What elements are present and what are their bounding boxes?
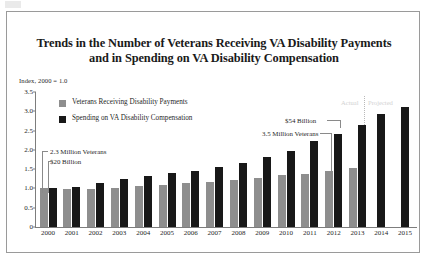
bar-pair-2012 (325, 92, 344, 227)
y-tick-label: 0.5 (24, 204, 33, 212)
bar-pair-2004 (135, 92, 154, 227)
bar-spending-2011 (310, 141, 318, 227)
leader-line-spending-2013-h (327, 120, 340, 121)
y-tick-label: 2.5 (24, 127, 33, 135)
y-tick-label: 2.0 (24, 146, 33, 154)
bar-veterans-2000 (40, 188, 48, 227)
bar-veterans-2005 (159, 185, 167, 227)
bar-pair-2015 (397, 92, 416, 227)
bar-veterans-2003 (111, 188, 119, 227)
bar-veterans-2007 (206, 182, 214, 227)
x-tick-label-2015: 2015 (390, 229, 420, 237)
bar-pair-2011 (301, 92, 320, 227)
bar-pair-2013 (349, 92, 368, 227)
bar-spending-2015 (401, 107, 409, 227)
bar-spending-2002 (96, 183, 104, 227)
bar-spending-2000 (49, 188, 57, 227)
bar-veterans-2006 (182, 183, 190, 227)
y-tick-label: 1.0 (24, 184, 33, 192)
bar-pair-2010 (278, 92, 297, 227)
bar-pair-2008 (230, 92, 249, 227)
bar-veterans-2011 (301, 174, 309, 227)
bar-veterans-2001 (63, 189, 71, 227)
chart-title-line-2: and in Spending on VA Disability Compens… (18, 51, 410, 66)
bar-veterans-2013 (349, 168, 357, 227)
bar-pair-2005 (159, 92, 178, 227)
bar-veterans-2010 (278, 175, 286, 227)
bar-spending-2006 (191, 171, 199, 227)
annotation-spending-2000: $20 Billion (50, 158, 81, 165)
leader-line-veterans-2000-h (42, 151, 48, 152)
x-tick-group: 2000200120022003200420052006200720082009… (36, 229, 417, 243)
y-tick-label: 3.0 (24, 107, 33, 115)
y-tick-label: 3.5 (24, 88, 33, 96)
bar-spending-2010 (287, 151, 295, 227)
leader-line-veterans-2013-v (331, 133, 332, 188)
bar-pair-2003 (111, 92, 130, 227)
bar-veterans-2008 (230, 180, 238, 227)
bar-spending-2003 (120, 179, 128, 227)
y-axis-label: Index, 2000 = 1.0 (19, 77, 67, 84)
bar-spending-2012 (334, 134, 342, 227)
bar-spending-2007 (215, 167, 223, 227)
annotation-veterans-2000: 2.3 Million Veterans (50, 148, 106, 155)
leader-line-veterans-2000-v (42, 151, 43, 193)
bar-spending-2005 (168, 173, 176, 227)
bar-veterans-2002 (87, 189, 95, 227)
bar-pair-2009 (254, 92, 273, 227)
bar-veterans-2004 (135, 186, 143, 227)
leader-line-spending-2013-v (340, 120, 341, 128)
bar-pair-2006 (182, 92, 201, 227)
bar-spending-2014 (377, 114, 385, 227)
legend-swatch-veterans (59, 100, 66, 107)
bar-group (36, 92, 417, 227)
leader-line-spending-2000-v (48, 161, 49, 193)
bar-veterans-2012 (325, 171, 333, 227)
bar-spending-2004 (144, 176, 152, 227)
legend-swatch-spending (59, 116, 66, 123)
bar-veterans-2009 (254, 178, 262, 227)
chart-title: Trends in the Number of Veterans Receivi… (18, 36, 410, 65)
legend-label-veterans: Veterans Receiving Disability Payments (72, 98, 188, 106)
leader-line-spending-2000-h (48, 161, 53, 162)
bar-pair-2007 (206, 92, 225, 227)
y-tick-label: 1.5 (24, 165, 33, 173)
bar-spending-2013 (358, 125, 366, 227)
bar-pair-2014 (373, 92, 392, 227)
bar-spending-2001 (72, 187, 80, 227)
scan-artifact (5, 1, 21, 8)
bar-spending-2008 (239, 163, 247, 227)
figure-root: Trends in the Number of Veterans Receivi… (0, 0, 429, 261)
chart-title-line-1: Trends in the Number of Veterans Receivi… (18, 36, 410, 51)
annotation-spending-2013: $54 Billion (285, 117, 316, 124)
annotation-veterans-2013: 3.5 Million Veterans (262, 130, 318, 137)
legend-label-spending: Spending on VA Disability Compensation (72, 114, 192, 122)
plot-area: 00.51.01.52.02.53.03.5 (36, 92, 417, 227)
bar-pair-2002 (87, 92, 106, 227)
bar-spending-2009 (263, 157, 271, 227)
x-axis-line (35, 227, 417, 228)
